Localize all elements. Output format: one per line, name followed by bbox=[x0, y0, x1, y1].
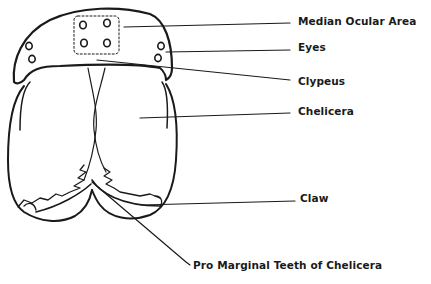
claw-tip-left bbox=[24, 203, 36, 210]
claw-left bbox=[36, 184, 91, 212]
teeth-left bbox=[18, 165, 86, 207]
leader-eyes bbox=[166, 50, 290, 52]
median-eye-top-left bbox=[80, 21, 87, 29]
chelicera-center-line-a bbox=[84, 68, 96, 180]
chelicera-center-line-b bbox=[94, 68, 106, 172]
leader-median-ocular-area bbox=[124, 23, 290, 27]
carapace-outline bbox=[14, 9, 172, 84]
lateral-eye-left-lower bbox=[29, 55, 35, 62]
leader-chelicera bbox=[140, 113, 290, 118]
label-chelicera: Chelicera bbox=[298, 105, 354, 117]
label-claw: Claw bbox=[300, 192, 329, 204]
spider-chelicerae-diagram bbox=[0, 0, 431, 284]
median-eye-bottom-right bbox=[104, 39, 111, 47]
lateral-eye-right-lower bbox=[155, 54, 161, 61]
label-median-ocular-area: Median Ocular Area bbox=[298, 15, 416, 27]
label-clypeus: Clypeus bbox=[298, 75, 345, 87]
chelicera-right-outline bbox=[92, 84, 177, 218]
chelicera-right-inner-line bbox=[162, 82, 167, 128]
label-eyes: Eyes bbox=[298, 41, 326, 53]
lateral-eye-right-upper bbox=[158, 42, 164, 49]
median-eye-top-right bbox=[104, 19, 111, 27]
leader-clypeus bbox=[97, 60, 290, 80]
teeth-right bbox=[104, 168, 160, 198]
leader-pro-marginal-teeth bbox=[92, 182, 190, 265]
label-pro-marginal-teeth: Pro Marginal Teeth of Chelicera bbox=[193, 259, 382, 271]
median-eye-bottom-left bbox=[81, 39, 88, 47]
lateral-eye-left-upper bbox=[26, 42, 32, 49]
